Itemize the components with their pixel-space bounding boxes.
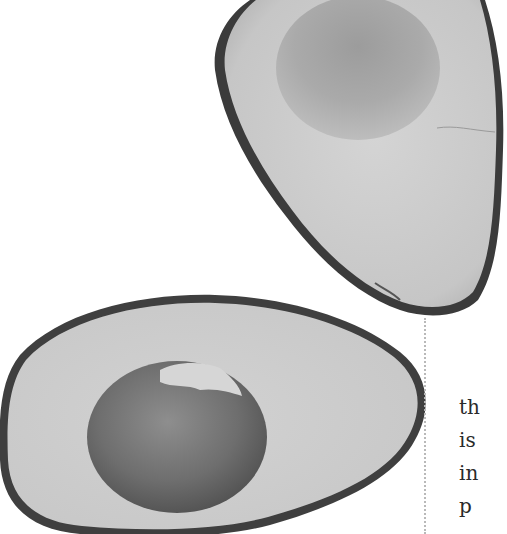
- text-line: in: [459, 457, 507, 490]
- text-line: is: [459, 424, 507, 457]
- text-column-fragment: th is in p: [459, 391, 507, 523]
- avocado-bottom: [0, 295, 426, 534]
- text-line: th: [459, 391, 507, 424]
- avocado-illustration: [0, 0, 507, 534]
- avocado-top: [215, 0, 504, 315]
- text-line: p: [459, 490, 507, 523]
- dotted-column-divider: [424, 318, 426, 534]
